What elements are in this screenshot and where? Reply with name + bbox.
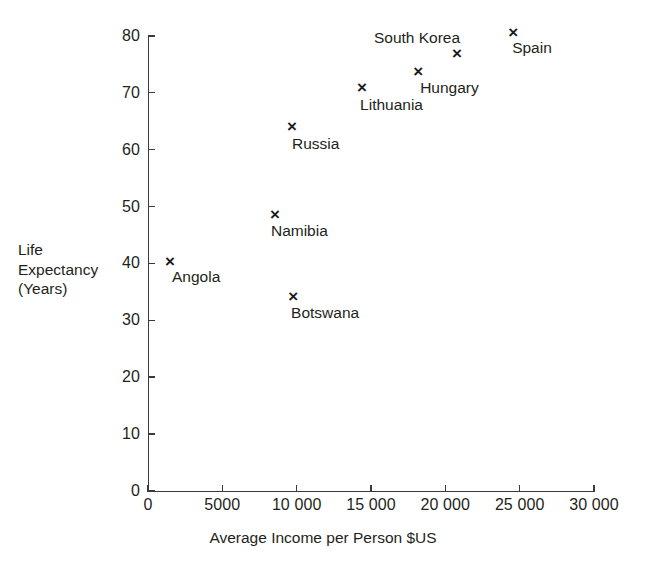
data-point-label: Botswana (291, 304, 359, 321)
y-tick-label: 70 (100, 85, 140, 101)
x-tick-mark (593, 485, 594, 492)
x-tick-mark (519, 485, 520, 492)
data-point-label: Lithuania (360, 96, 423, 113)
y-tick-mark (148, 376, 155, 377)
y-tick-mark (148, 320, 155, 321)
y-tick-label: 30 (100, 312, 140, 328)
y-axis-title: Life Expectancy (Years) (18, 240, 98, 299)
y-tick-mark (148, 149, 155, 150)
x-tick-mark (370, 485, 371, 492)
y-tick-label: 80 (100, 28, 140, 44)
data-point-label: South Korea (374, 29, 460, 46)
data-point-label: Russia (292, 135, 339, 152)
y-tick-mark (148, 35, 155, 36)
cross-marker-icon: × (451, 44, 463, 64)
cross-marker-icon: × (286, 117, 298, 137)
y-tick-mark (148, 92, 155, 93)
y-tick-mark (148, 263, 155, 264)
x-axis-title: Average Income per Person $US (0, 528, 646, 547)
y-tick-label: 20 (100, 369, 140, 385)
data-point-label: Namibia (271, 222, 328, 239)
y-tick-label: 50 (100, 199, 140, 215)
cross-marker-icon: × (356, 78, 368, 98)
x-tick-mark (222, 485, 223, 492)
y-tick-label: 10 (100, 426, 140, 442)
data-point-label: Spain (512, 39, 552, 56)
x-tick-label: 30 000 (549, 496, 639, 514)
scatter-plot-figure: 01020304050607080 0500010 00015 00020 00… (0, 0, 646, 574)
y-axis-line (148, 36, 149, 492)
y-tick-mark (148, 433, 155, 434)
x-tick-mark (147, 485, 148, 492)
y-tick-label: 60 (100, 142, 140, 158)
data-point-label: Angola (172, 268, 220, 285)
x-tick-mark (445, 485, 446, 492)
y-tick-label: 40 (100, 255, 140, 271)
y-tick-mark (148, 490, 155, 491)
data-point-label: Hungary (420, 79, 479, 96)
y-tick-mark (148, 206, 155, 207)
x-tick-mark (296, 485, 297, 492)
